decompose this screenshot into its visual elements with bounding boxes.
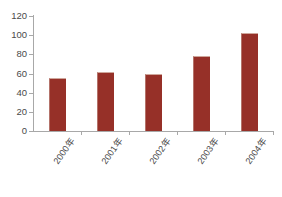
y-axis-tick-label: 120 [11, 11, 27, 21]
x-axis-tick-label: 2003年 [196, 137, 220, 166]
y-axis-tick-label: 60 [16, 69, 27, 79]
x-axis-tick [129, 131, 130, 135]
x-axis-tick-label: 2002年 [148, 137, 172, 166]
y-axis-tick-label: 40 [16, 88, 27, 98]
x-axis-tick-label: 2000年 [52, 137, 76, 166]
x-axis-line [33, 131, 274, 132]
x-axis-tick [225, 131, 226, 135]
x-axis-tick-label: 2001年 [100, 137, 124, 166]
y-axis-tick-label: 20 [16, 107, 27, 117]
y-axis-tick [29, 35, 33, 36]
y-axis-tick-label: 0 [22, 126, 27, 136]
y-axis-tick [29, 93, 33, 94]
y-axis-tick [29, 54, 33, 55]
x-axis-tick [273, 131, 274, 135]
y-axis-tick [29, 74, 33, 75]
bar [241, 33, 258, 131]
x-axis-tick [81, 131, 82, 135]
plot-area: 020406080100120 [33, 16, 273, 131]
x-axis-tick-label: 2004年 [244, 137, 268, 166]
bar [49, 78, 66, 131]
y-axis-tick [29, 16, 33, 17]
bar [193, 56, 210, 131]
y-axis-tick-label: 80 [16, 50, 27, 60]
y-axis-tick-label: 100 [11, 30, 27, 40]
bar-chart: 020406080100120 2000年2001年2002年2003年2004… [0, 0, 282, 197]
y-axis-tick [29, 112, 33, 113]
x-axis-tick [177, 131, 178, 135]
bar [97, 72, 114, 131]
y-axis-tick [29, 131, 33, 132]
bar [145, 74, 162, 131]
